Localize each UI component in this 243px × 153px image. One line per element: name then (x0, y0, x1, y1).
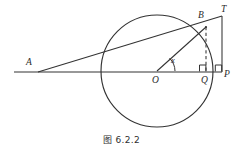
point-label-o: O (152, 76, 159, 86)
point-label-b: B (198, 11, 204, 21)
right-angle-marker-p (215, 65, 221, 71)
angle-label-x: x (171, 56, 175, 65)
point-label-q: Q (201, 76, 208, 86)
point-label-a: A (26, 58, 32, 68)
secant-segment-AT (38, 16, 222, 72)
point-marker-b (205, 26, 207, 28)
right-angle-marker-q (200, 65, 206, 71)
geometry-figure: A B T O Q P x 图 6.2.2 (0, 0, 243, 153)
figure-caption: 图 6.2.2 (0, 133, 243, 146)
point-label-p: P (224, 70, 230, 80)
point-label-t: T (221, 5, 226, 15)
